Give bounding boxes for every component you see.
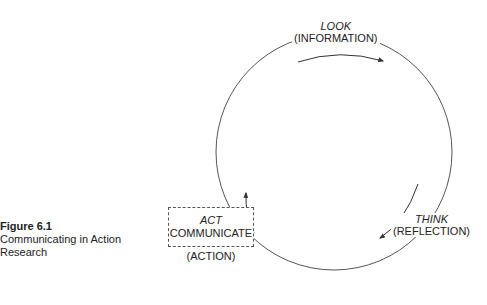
act-verb: ACT	[169, 214, 253, 227]
act-extra: COMMUNICATE	[170, 227, 252, 239]
figure-number: Figure 6.1	[0, 220, 150, 233]
think-phase: (REFLECTION)	[393, 225, 470, 237]
arrow-look-to-think	[298, 55, 383, 62]
act-phase: (ACTION)	[168, 250, 254, 262]
figure-title: Communicating in Action Research	[0, 233, 121, 258]
think-verb: THINK	[393, 213, 470, 225]
look-label: LOOK (INFORMATION)	[292, 20, 380, 44]
act-box: ACT COMMUNICATE	[168, 207, 254, 247]
figure-caption: Figure 6.1 Communicating in Action Resea…	[0, 220, 150, 259]
think-label: THINK (REFLECTION)	[391, 213, 472, 237]
look-verb: LOOK	[294, 20, 378, 32]
look-phase: (INFORMATION)	[294, 32, 378, 44]
